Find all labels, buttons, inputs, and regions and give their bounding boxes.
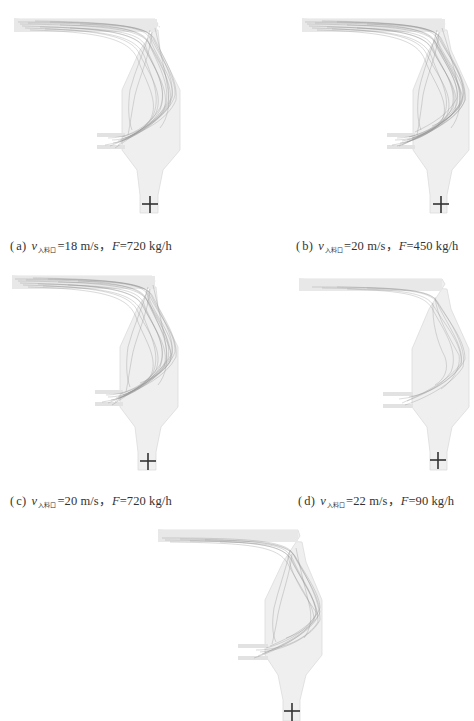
figure-panel-a	[0, 0, 237, 222]
caption-c: (c) v入料口=20 m/s，F=720 kg/h	[10, 490, 172, 509]
separator-vessel	[158, 530, 322, 721]
figure-panel-d	[237, 257, 474, 479]
separator-vessel	[299, 279, 469, 470]
separator-vessel	[14, 19, 180, 213]
caption-d: (d) v入料口=22 m/s，F=90 kg/h	[298, 490, 454, 509]
caption-b: (b) v入料口=20 m/s，F=450 kg/h	[296, 235, 458, 254]
figure-panel-c	[0, 257, 237, 479]
particle-trajectory-diagram-a	[0, 0, 237, 222]
figure-panel-e	[150, 510, 350, 721]
particle-trajectory-diagram-c	[0, 257, 237, 479]
caption-a: (a) v入料口=18 m/s，F=720 kg/h	[10, 235, 172, 254]
particle-trajectory-diagram-b	[237, 0, 474, 222]
caption-label: d	[304, 494, 310, 508]
particle-trajectory-diagram-e	[150, 510, 350, 721]
particle-trajectory-diagram-d	[237, 257, 474, 479]
caption-label: b	[302, 239, 308, 253]
figure-panel-b	[237, 0, 474, 222]
